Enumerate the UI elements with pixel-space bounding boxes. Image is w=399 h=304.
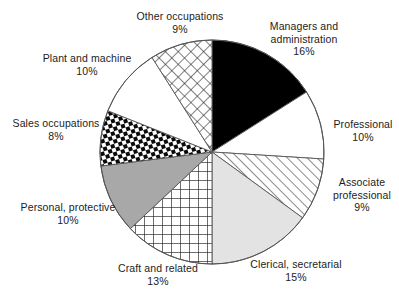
slice-value: 13%: [108, 275, 208, 288]
slice-value: 10%: [330, 131, 396, 144]
slice-label-other-occupations: Other occupations 9%: [128, 10, 232, 35]
slice-label-line1: Personal, protective: [14, 201, 122, 214]
slice-label-line1: Craft and related: [108, 262, 208, 275]
slice-label-line1: Sales occupations: [7, 117, 105, 130]
slice-label-clerical-secretarial: Clerical, secretarial 15%: [243, 258, 349, 283]
slice-value: 15%: [243, 271, 349, 284]
slice-label-line1: Managers and: [252, 20, 356, 33]
slice-label-line1: Associate: [327, 176, 397, 189]
slice-label-line1: Clerical, secretarial: [243, 258, 349, 271]
slice-label-professional: Professional 10%: [330, 118, 396, 143]
slice-value: 8%: [7, 130, 105, 143]
slice-label-plant-and-machine: Plant and machine 10%: [38, 52, 136, 77]
slice-label-associate-professional: Associate professional 9%: [327, 176, 397, 214]
slice-value: 10%: [14, 214, 122, 227]
slice-value: 10%: [38, 65, 136, 78]
slice-label-line1: Professional: [330, 118, 396, 131]
pie-chart-figure: Managers and administration 16% Professi…: [0, 0, 399, 304]
slice-value: 9%: [128, 23, 232, 36]
slice-label-managers-and-administration: Managers and administration 16%: [252, 20, 356, 58]
slice-label-line2: professional: [327, 189, 397, 202]
slice-label-line2: administration: [252, 33, 356, 46]
slice-label-line1: Other occupations: [128, 10, 232, 23]
slice-label-craft-and-related: Craft and related 13%: [108, 262, 208, 287]
slice-value: 16%: [252, 45, 356, 58]
slice-label-sales-occupations: Sales occupations 8%: [7, 117, 105, 142]
slice-value: 9%: [327, 201, 397, 214]
slice-label-personal-protective: Personal, protective 10%: [14, 201, 122, 226]
slice-label-line1: Plant and machine: [38, 52, 136, 65]
